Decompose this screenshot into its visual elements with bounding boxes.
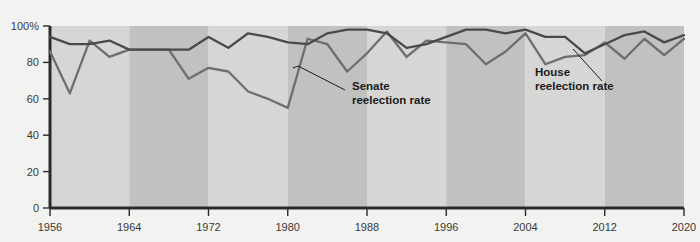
background-band <box>446 26 525 208</box>
background-band <box>367 26 446 208</box>
x-tick-label: 1964 <box>117 221 141 233</box>
senate-annotation-line1: Senate <box>352 80 390 92</box>
y-tick-label: 40 <box>27 129 39 141</box>
chart-container: 020406080100% 19561964197219801988199620… <box>0 0 700 242</box>
x-tick-label: 1972 <box>196 221 220 233</box>
y-tick-label: 60 <box>27 93 39 105</box>
background-band <box>288 26 367 208</box>
senate-annotation-line2: reelection rate <box>352 94 431 106</box>
x-tick-label: 2012 <box>593 221 617 233</box>
y-tick-label: 100% <box>11 20 39 32</box>
x-tick-label: 2020 <box>672 221 696 233</box>
x-tick-label: 1996 <box>434 221 458 233</box>
y-tick-label: 20 <box>27 166 39 178</box>
y-tick-label: 80 <box>27 56 39 68</box>
house-annotation-line2: reelection rate <box>535 80 614 92</box>
x-tick-label: 2004 <box>513 221 537 233</box>
x-tick-label: 1956 <box>38 221 62 233</box>
x-tick-label: 1980 <box>276 221 300 233</box>
y-tick-label: 0 <box>33 202 39 214</box>
background-band <box>209 26 288 208</box>
reelection-rate-line-chart: 020406080100% 19561964197219801988199620… <box>0 0 700 242</box>
house-annotation-line1: House <box>535 66 570 78</box>
background-band <box>129 26 208 208</box>
x-tick-label: 1988 <box>355 221 379 233</box>
